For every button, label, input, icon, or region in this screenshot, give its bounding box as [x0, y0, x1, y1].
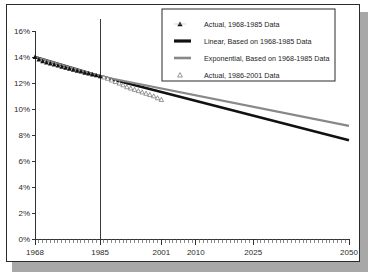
y-tick-label: 16% [14, 27, 30, 36]
y-tick-label: 14% [14, 53, 30, 62]
y-tick-label: 0% [18, 235, 30, 244]
y-tick-label: 6% [18, 157, 30, 166]
chart-canvas: 16%14%12%10%8%6%4%2%0% 19681985200120102… [7, 5, 359, 261]
legend-label: Actual, 1986-2001 Data [204, 71, 280, 80]
x-tick-label: 2050 [340, 248, 358, 257]
legend-label: Exponential, Based on 1968-1985 Data [204, 54, 329, 63]
y-tick-label: 10% [14, 105, 30, 114]
x-tick-label: 2025 [244, 248, 262, 257]
x-tick-label: 2001 [152, 248, 170, 257]
x-tick-label: 1968 [26, 248, 44, 257]
y-tick-label: 2% [18, 209, 30, 218]
y-tick-label: 12% [14, 79, 30, 88]
chart-legend: Actual, 1968-1985 DataLinear, Based on 1… [162, 9, 335, 81]
legend-label: Linear, Based on 1968-1985 Data [204, 37, 312, 46]
figure-frame: 16%14%12%10%8%6%4%2%0% 19681985200120102… [6, 4, 360, 262]
x-tick-label: 1985 [91, 248, 109, 257]
legend-label: Actual, 1968-1985 Data [204, 20, 280, 29]
chart-figure: 16%14%12%10%8%6%4%2%0% 19681985200120102… [0, 0, 371, 275]
y-tick-label: 4% [18, 183, 30, 192]
y-tick-label: 8% [18, 131, 30, 140]
x-tick-label: 2010 [187, 248, 205, 257]
